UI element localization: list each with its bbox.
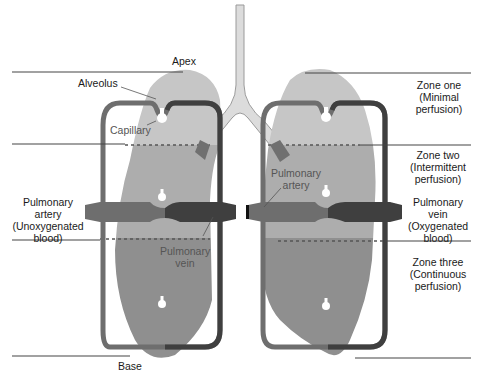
pulmonary-artery-left-label: Pulmonary artery (Unoxygenated blood) — [12, 196, 84, 244]
base-label: Base — [118, 360, 142, 372]
pulmonary-vein-right-label: Pulmonary vein (Oxygenated blood) — [402, 196, 474, 244]
pulmonary-artery-center-label: Pulmonary artery — [268, 167, 324, 191]
zone-one-label: Zone one (Minimal perfusion) — [404, 79, 474, 115]
apex-label: Apex — [172, 55, 196, 67]
capillary-label: Capillary — [110, 124, 151, 136]
pulmonary-vein-center-label: Pulmonary vein — [160, 245, 210, 269]
alveolus-label: Alveolus — [78, 77, 118, 89]
right-lung — [246, 60, 402, 368]
zone-two-label: Zone two (Intermittent perfusion) — [400, 149, 476, 185]
zone-three-label: Zone three (Continuous perfusion) — [400, 256, 476, 292]
lung-perfusion-zones-diagram — [0, 0, 483, 378]
left-lung — [85, 60, 240, 368]
